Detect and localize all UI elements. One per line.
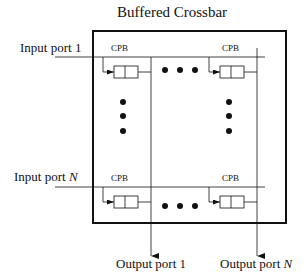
output-port-1-label: Output port 1 xyxy=(116,256,186,272)
output-port-n-label: Output port N xyxy=(220,256,292,272)
input-port-1-text: Input port xyxy=(20,40,75,55)
cpb-label-1-n: CPB xyxy=(222,43,239,53)
input-port-1-index: 1 xyxy=(75,40,82,55)
cpb-buffer-n-n xyxy=(209,187,257,208)
diagram-title: Buffered Crossbar xyxy=(117,4,227,21)
cpb-label-n-n: CPB xyxy=(222,173,239,183)
input-port-1-label: Input port 1 xyxy=(20,40,81,56)
cpb-buffer-1-1 xyxy=(103,57,151,78)
cpb-buffer-1-n xyxy=(209,57,257,78)
cpb-buffer-n-1 xyxy=(103,187,151,208)
ellipsis-top-row xyxy=(162,67,198,73)
output-port-1-text: Output port xyxy=(116,256,180,271)
ellipsis-left-column xyxy=(120,99,126,134)
input-port-n-label: Input port N xyxy=(14,169,78,185)
cpb-label-n-1: CPB xyxy=(111,173,128,183)
output-port-n-index: N xyxy=(284,256,293,271)
ellipsis-bottom-row xyxy=(162,203,198,209)
input-port-n-text: Input port xyxy=(14,169,69,184)
output-port-1-index: 1 xyxy=(180,256,187,271)
cpb-label-1-1: CPB xyxy=(111,43,128,53)
input-port-n-index: N xyxy=(69,169,78,184)
output-port-n-text: Output port xyxy=(220,256,284,271)
ellipsis-right-column xyxy=(226,99,232,134)
